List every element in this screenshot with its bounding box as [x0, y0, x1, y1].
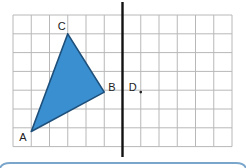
label-d: D [129, 81, 137, 93]
label-a: A [19, 131, 27, 143]
reflection-diagram: ABCD [0, 0, 246, 168]
panel-bottom-edge [0, 163, 246, 168]
label-c: C [58, 20, 66, 32]
point-d [139, 91, 142, 94]
label-b: B [108, 81, 115, 93]
